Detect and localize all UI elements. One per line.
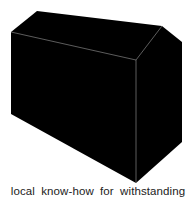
house-shape-illustration [0,0,196,190]
house-silhouette [11,11,182,183]
caption-text: local know-how for withstanding [0,185,196,197]
house-box-icon [0,0,196,190]
